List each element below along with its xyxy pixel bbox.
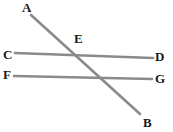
point-label-c: C bbox=[3, 48, 12, 61]
geometry-diagram: A E C D F G B bbox=[0, 0, 173, 132]
segment-ab bbox=[31, 15, 140, 114]
point-label-b: B bbox=[143, 116, 152, 129]
point-label-f: F bbox=[3, 68, 11, 81]
segment-cd bbox=[15, 53, 153, 58]
segment-fg bbox=[14, 76, 152, 79]
point-label-d: D bbox=[155, 50, 164, 63]
point-label-g: G bbox=[155, 72, 165, 85]
point-label-a: A bbox=[22, 1, 31, 14]
diagram-canvas bbox=[0, 0, 173, 132]
point-label-e: E bbox=[74, 32, 83, 45]
